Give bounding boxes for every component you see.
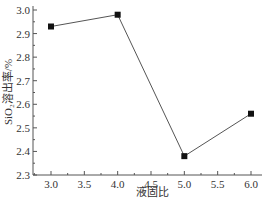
data-point-marker: [115, 12, 121, 18]
y-tick-label: 2.5: [16, 122, 30, 134]
data-point-marker: [248, 111, 254, 117]
y-tick-label: 2.8: [16, 51, 30, 63]
y-axis-ticks: 2.32.42.52.62.72.82.93.0: [16, 4, 37, 181]
x-tick-label: 6.0: [244, 178, 258, 190]
x-tick-label: 4.0: [111, 178, 125, 190]
y-tick-label: 2.4: [16, 145, 30, 157]
y-tick-label: 2.6: [16, 98, 30, 110]
y-tick-label: 3.0: [16, 4, 30, 16]
axes: [33, 6, 262, 175]
y-tick-label: 2.7: [16, 75, 30, 87]
y-axis-title: SiO₂溶出率/%: [1, 59, 14, 125]
x-tick-label: 5.0: [177, 178, 191, 190]
y-tick-label: 2.9: [16, 28, 30, 40]
y-tick-label: 2.3: [16, 169, 30, 181]
series-line: [51, 15, 251, 156]
x-axis-title: 液固比: [136, 185, 169, 198]
data-series: [48, 12, 254, 159]
x-tick-label: 3.0: [44, 178, 58, 190]
x-tick-label: 3.5: [77, 178, 91, 190]
data-point-marker: [48, 24, 54, 30]
data-point-marker: [181, 153, 187, 159]
x-tick-label: 5.5: [211, 178, 225, 190]
line-chart: 2.32.42.52.62.72.82.93.0 3.03.54.04.55.0…: [0, 0, 268, 201]
